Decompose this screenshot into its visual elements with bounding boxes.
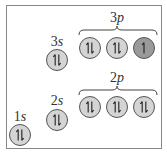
orbital-3p-3 bbox=[133, 37, 155, 59]
brace-2p-icon bbox=[78, 86, 158, 96]
orbital-2p-2 bbox=[106, 96, 128, 118]
orbital-3p-1 bbox=[79, 37, 101, 59]
paired-electrons-icon bbox=[80, 97, 100, 117]
paired-electrons-icon bbox=[107, 97, 127, 117]
label-2s: 2s bbox=[51, 93, 63, 109]
label-1s: 1s bbox=[14, 109, 26, 125]
orbital-2p-1 bbox=[79, 96, 101, 118]
paired-electrons-icon bbox=[134, 97, 154, 117]
paired-electrons-icon bbox=[47, 50, 67, 70]
orbital-3p-2 bbox=[106, 37, 128, 59]
brace-3p-icon bbox=[78, 26, 158, 36]
paired-electrons-icon bbox=[47, 110, 67, 130]
paired-electrons-icon bbox=[10, 125, 30, 145]
orbital-2s bbox=[46, 109, 68, 131]
label-3p: 3p bbox=[110, 10, 124, 26]
paired-electrons-icon bbox=[107, 38, 127, 58]
orbital-2p-3 bbox=[133, 96, 155, 118]
orbital-3s bbox=[46, 49, 68, 71]
label-3s: 3s bbox=[51, 34, 63, 50]
paired-electrons-icon bbox=[80, 38, 100, 58]
label-2p: 2p bbox=[110, 70, 124, 86]
single-electron-icon bbox=[134, 38, 154, 58]
orbital-1s bbox=[9, 124, 31, 146]
